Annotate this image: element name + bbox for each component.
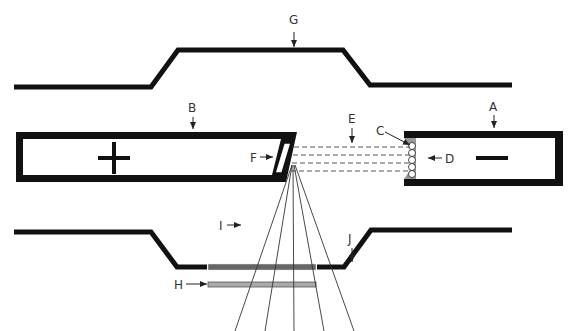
- envelope-top: [14, 50, 512, 87]
- label-f: F: [250, 151, 257, 165]
- label-j: J: [347, 232, 352, 246]
- minus-sign-icon: [476, 156, 508, 160]
- envelope-bottom-right: [317, 230, 512, 267]
- filament: [409, 143, 416, 178]
- x-ray-beam: [235, 165, 354, 331]
- filter: [208, 282, 316, 287]
- label-e: E: [348, 112, 356, 126]
- label-h: H: [174, 278, 183, 292]
- tube-window: [208, 264, 316, 270]
- label-c: C: [376, 124, 384, 138]
- label-i: I: [219, 219, 223, 233]
- envelope-bottom-left: [14, 232, 207, 267]
- label-b: B: [188, 101, 196, 115]
- electron-beam: [291, 147, 410, 171]
- x-ray-tube-diagram: G B A E C D F I J H: [0, 0, 587, 331]
- label-a: A: [489, 100, 498, 114]
- label-g: G: [289, 13, 298, 27]
- label-d: D: [445, 152, 454, 166]
